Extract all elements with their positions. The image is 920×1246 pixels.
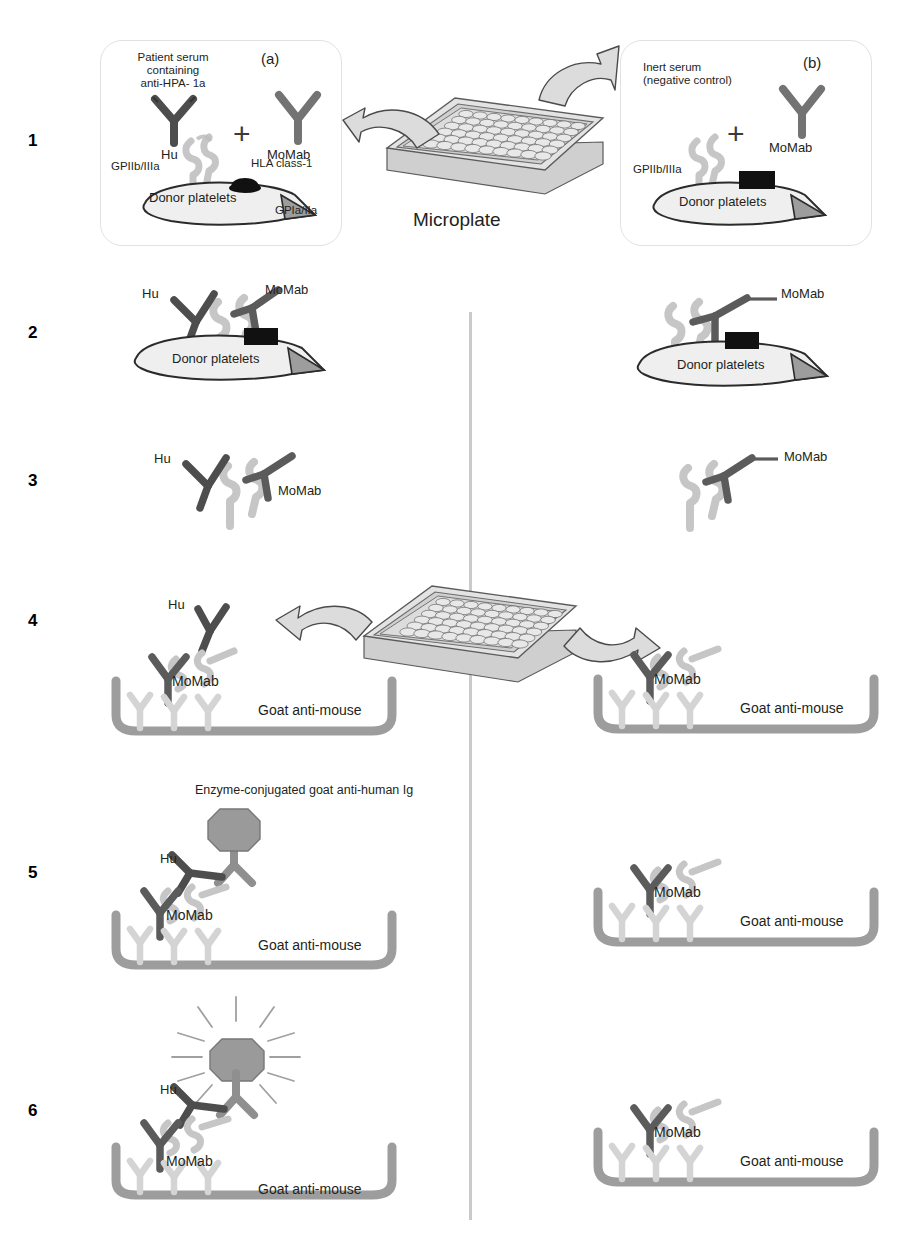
panel-b: (b) Inert serum (negative control) + MoM… (620, 40, 872, 246)
step-number-6: 6 (28, 1101, 37, 1121)
figure-canvas: 1 2 3 4 5 6 (a) Patient serum containing… (0, 0, 920, 1246)
step2-left-mouse-label: MoMab (265, 283, 308, 298)
microplate-top-icon (335, 52, 625, 192)
step-number-2: 2 (28, 323, 37, 343)
panel-b-tag: (b) (803, 54, 821, 71)
step6-left-human-label: Hu (160, 1083, 177, 1098)
step5-left-well: Enzyme-conjugated goat anti-human Ig (110, 785, 460, 955)
step4-left-well: Hu MoMab Goat anti-mouse (110, 585, 450, 750)
step-number-3: 3 (28, 471, 37, 491)
step2-right-mouse-label: MoMab (781, 287, 824, 302)
step2-left-group: Hu MoMab Donor platelets (110, 278, 410, 388)
step4-right-mouse-label: MoMab (654, 671, 701, 687)
step5-left-mouse-label: MoMab (166, 907, 213, 923)
step2-left-platelet-label: Donor platelets (172, 352, 259, 367)
vertical-divider (469, 312, 472, 1220)
step5-right-well: MoMab Goat anti-mouse (592, 838, 920, 968)
panel-b-platelet-label: Donor platelets (679, 195, 766, 210)
well-with-antibodies-right-6 (592, 1078, 920, 1208)
step4-left-coat-label: Goat anti-mouse (258, 702, 362, 718)
step6-left-mouse-label: MoMab (166, 1153, 213, 1169)
step-number-5: 5 (28, 863, 37, 883)
step5-right-coat-label: Goat anti-mouse (740, 913, 844, 929)
well-with-antibodies-right-5 (592, 838, 920, 968)
panel-a-gp2b3a-label: GPIIb/IIIa (111, 160, 160, 173)
step3-right-group: MoMab (660, 452, 920, 542)
well-with-antibodies-left (110, 585, 450, 750)
serum-b-line-1: Inert serum (643, 61, 701, 73)
step4-left-mouse-label: MoMab (172, 673, 219, 689)
step6-left-coat-label: Goat anti-mouse (258, 1181, 362, 1197)
serum-line-1: Patient serum (138, 51, 209, 63)
panel-a: (a) Patient serum containing anti-HPA- 1… (100, 40, 342, 246)
step4-right-well: MoMab Goat anti-mouse (592, 625, 920, 755)
serum-line-2: containing (147, 64, 199, 76)
serum-b-line-2: (negative control) (643, 74, 732, 86)
panel-b-serum-label: Inert serum (negative control) (643, 61, 732, 87)
step3-left-group: Hu MoMab (160, 452, 420, 542)
donor-platelet-icon-b (635, 131, 855, 241)
panel-a-serum-label: Patient serum containing anti-HPA- 1a (113, 51, 233, 91)
panel-a-tag: (a) (261, 50, 279, 67)
step6-left-well: Hu MoMab Goat anti-mouse (110, 995, 460, 1195)
step-number-1: 1 (28, 131, 37, 151)
donor-platelet-icon-a (109, 133, 339, 243)
panel-a-hla-label: HLA class-1 (251, 157, 312, 170)
step5-conjugate-label: Enzyme-conjugated goat anti-human Ig (195, 783, 413, 797)
step3-left-human-label: Hu (154, 452, 171, 467)
step3-right-mouse-label: MoMab (784, 450, 827, 465)
panel-a-gp1a2a-label: GPIa/IIa (275, 204, 317, 217)
step6-right-coat-label: Goat anti-mouse (740, 1153, 844, 1169)
panel-b-gp2b3a-label: GPIIb/IIIa (633, 163, 682, 176)
step6-right-mouse-label: MoMab (654, 1124, 701, 1140)
serum-line-3: anti-HPA- 1a (141, 77, 206, 89)
panel-a-platelet-label: Donor platelets (149, 191, 236, 206)
step2-left-human-label: Hu (142, 287, 159, 302)
step2-right-group: MoMab Donor platelets (625, 288, 920, 398)
step4-right-coat-label: Goat anti-mouse (740, 700, 844, 716)
step5-left-coat-label: Goat anti-mouse (258, 937, 362, 953)
step2-right-platelet-label: Donor platelets (677, 358, 764, 373)
antibody-gp-complex-right (660, 452, 920, 542)
step-number-4: 4 (28, 611, 37, 631)
well-with-antibodies-right (592, 625, 920, 755)
step6-right-well: MoMab Goat anti-mouse (592, 1078, 920, 1208)
step4-left-human-label: Hu (168, 598, 185, 613)
step5-right-mouse-label: MoMab (654, 884, 701, 900)
step3-left-mouse-label: MoMab (278, 484, 321, 499)
step5-left-human-label: Hu (160, 852, 177, 867)
microplate-caption: Microplate (413, 209, 501, 231)
platelet-antibody-complex-right (625, 288, 920, 398)
